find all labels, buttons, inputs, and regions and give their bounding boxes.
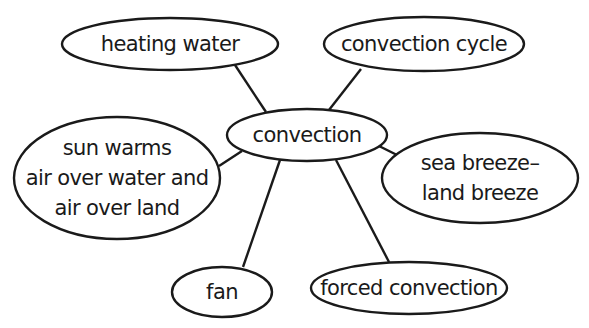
node-label: air over water and xyxy=(26,166,209,190)
node-label: land breeze xyxy=(422,181,539,205)
node-label: sun warms xyxy=(63,136,172,160)
node-fan: fan xyxy=(172,267,272,317)
node-convection-cycle: convection cycle xyxy=(324,17,524,71)
node-label: convection xyxy=(253,123,362,147)
node-label: forced convection xyxy=(320,276,498,300)
node-label: air over land xyxy=(54,196,179,220)
node-label: fan xyxy=(206,280,238,304)
edge-convection-cycle xyxy=(329,69,361,110)
concept-map: convectionheating waterconvection cycles… xyxy=(0,0,589,328)
nodes: convectionheating waterconvection cycles… xyxy=(14,17,578,317)
node-heating-water: heating water xyxy=(62,18,278,70)
node-sun-warms: sun warmsair over water andair over land xyxy=(14,117,220,239)
node-label: convection cycle xyxy=(341,32,507,56)
node-sea-breeze: sea breeze–land breeze xyxy=(382,133,578,223)
node-convection: convection xyxy=(227,109,387,161)
edge-fan xyxy=(243,160,280,267)
edge-sun-warms xyxy=(219,151,242,166)
node-label: heating water xyxy=(101,32,240,56)
edge-heating-water xyxy=(235,65,266,112)
node-forced-convection: forced convection xyxy=(311,262,507,314)
edges xyxy=(219,65,401,267)
node-ellipse xyxy=(382,133,578,223)
node-label: sea breeze– xyxy=(421,151,540,175)
